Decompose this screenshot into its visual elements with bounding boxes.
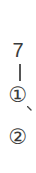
section-number: 7	[0, 40, 36, 60]
circled-number-2: ②	[0, 127, 36, 148]
circled-number-1: ①	[0, 85, 36, 106]
ideographic-comma	[27, 106, 32, 111]
vertical-dash	[19, 64, 21, 81]
